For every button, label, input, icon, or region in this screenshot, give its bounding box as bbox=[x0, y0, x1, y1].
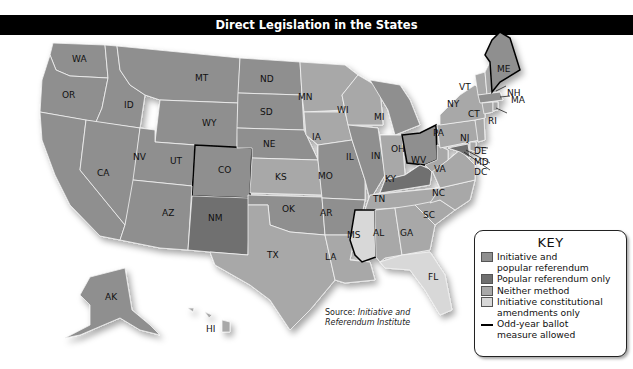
state-AZ bbox=[120, 180, 192, 250]
label-WV: WV bbox=[411, 155, 427, 165]
key-label: Initiative and bbox=[497, 251, 557, 262]
label-MS: MS bbox=[347, 230, 361, 240]
label-NY: NY bbox=[447, 99, 460, 109]
map-key: KEY Initiative andpopular referendum Pop… bbox=[474, 230, 627, 357]
source-line1: Initiative and bbox=[358, 308, 411, 317]
label-LA: LA bbox=[325, 252, 337, 262]
label-NC: NC bbox=[432, 188, 445, 198]
key-label: Popular referendum only bbox=[497, 274, 611, 285]
key-title: KEY bbox=[481, 235, 620, 250]
source-line2: Referendum Institute bbox=[325, 318, 410, 327]
outline-line-icon bbox=[481, 324, 493, 326]
label-AZ: AZ bbox=[162, 208, 174, 218]
key-item-neither-method: Neither method bbox=[481, 286, 620, 297]
state-FL bbox=[380, 252, 452, 315]
label-CO: CO bbox=[218, 165, 231, 175]
label-UT: UT bbox=[170, 156, 183, 166]
label-CT: CT bbox=[468, 109, 480, 119]
label-ME: ME bbox=[497, 64, 511, 74]
label-AK: AK bbox=[105, 292, 118, 302]
label-HI: HI bbox=[206, 324, 215, 334]
label-VT: VT bbox=[459, 82, 471, 92]
label-NJ: NJ bbox=[460, 133, 469, 143]
label-FL: FL bbox=[428, 272, 438, 282]
label-WA: WA bbox=[72, 54, 87, 64]
state-CT bbox=[482, 102, 493, 114]
label-OR: OR bbox=[62, 90, 75, 100]
state-NM bbox=[188, 196, 250, 255]
key-item-initiative-constitutional-amendments-only: Initiative constitutionalamendments only bbox=[481, 297, 620, 318]
key-item-popular-referendum-only: Popular referendum only bbox=[481, 274, 620, 285]
label-KY: KY bbox=[385, 174, 397, 184]
label-TN: TN bbox=[372, 194, 385, 204]
label-DC: DC bbox=[474, 167, 487, 177]
label-MI: MI bbox=[374, 112, 384, 122]
label-TX: TX bbox=[266, 250, 279, 260]
label-MO: MO bbox=[318, 171, 333, 181]
key-label: popular referendum bbox=[497, 262, 589, 273]
label-NV: NV bbox=[133, 152, 147, 162]
label-PA: PA bbox=[433, 128, 445, 138]
label-AR: AR bbox=[320, 208, 332, 218]
swatch-initiative-constitutional-amendments-only bbox=[481, 297, 493, 307]
label-CA: CA bbox=[97, 168, 110, 178]
source-prefix: Source: bbox=[325, 308, 358, 317]
state-AK bbox=[65, 268, 160, 338]
label-MT: MT bbox=[195, 73, 209, 83]
label-IN: IN bbox=[371, 151, 380, 161]
label-NE: NE bbox=[263, 139, 276, 149]
label-WY: WY bbox=[202, 118, 217, 128]
swatch-popular-referendum-only bbox=[481, 274, 493, 284]
label-SC: SC bbox=[423, 210, 435, 220]
label-OH: OH bbox=[391, 144, 405, 154]
label-DE: DE bbox=[474, 146, 487, 156]
label-NM: NM bbox=[208, 213, 223, 223]
swatch-neither-method bbox=[481, 286, 493, 296]
label-GA: GA bbox=[400, 228, 414, 238]
label-ID: ID bbox=[124, 100, 134, 110]
label-MA: MA bbox=[511, 95, 526, 105]
key-item-initiative-and-popular-referendum: Initiative andpopular referendum bbox=[481, 252, 620, 273]
label-WI: WI bbox=[337, 105, 349, 115]
label-VA: VA bbox=[434, 164, 447, 174]
state-RI bbox=[493, 102, 498, 111]
key-label: measure allowed bbox=[497, 329, 575, 340]
label-RI: RI bbox=[488, 116, 497, 126]
source-note: Source: Initiative and Referendum Instit… bbox=[325, 308, 410, 328]
key-label: Initiative constitutional bbox=[497, 296, 603, 307]
key-label: Neither method bbox=[497, 286, 569, 297]
label-MD: MD bbox=[474, 157, 489, 167]
label-KS: KS bbox=[275, 172, 287, 182]
label-MN: MN bbox=[298, 92, 313, 102]
label-ND: ND bbox=[260, 74, 274, 84]
swatch-initiative-and-popular-referendum bbox=[481, 252, 493, 262]
label-IL: IL bbox=[346, 152, 354, 162]
key-label: amendments only bbox=[497, 307, 580, 318]
label-IA: IA bbox=[312, 132, 322, 142]
key-item-odd-year-ballot: Odd-year ballotmeasure allowed bbox=[481, 319, 620, 340]
label-OK: OK bbox=[282, 204, 296, 214]
label-AL: AL bbox=[373, 228, 384, 238]
key-label: Odd-year ballot bbox=[497, 318, 568, 329]
state-WY bbox=[155, 100, 238, 148]
label-SD: SD bbox=[260, 107, 273, 117]
